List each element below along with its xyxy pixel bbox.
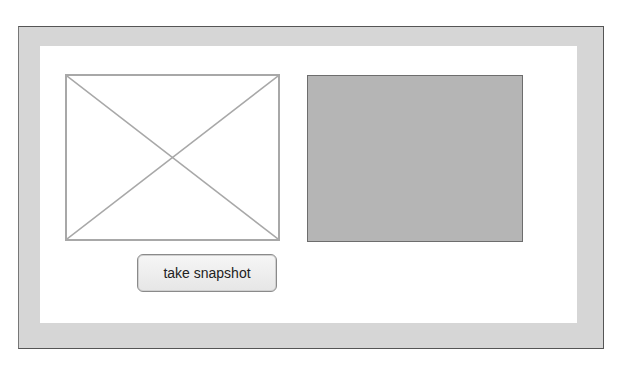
broken-image-x-icon <box>67 76 278 239</box>
video-element <box>65 74 280 241</box>
take-snapshot-button[interactable]: take snapshot <box>137 254 277 292</box>
snapshot-canvas <box>307 75 523 242</box>
